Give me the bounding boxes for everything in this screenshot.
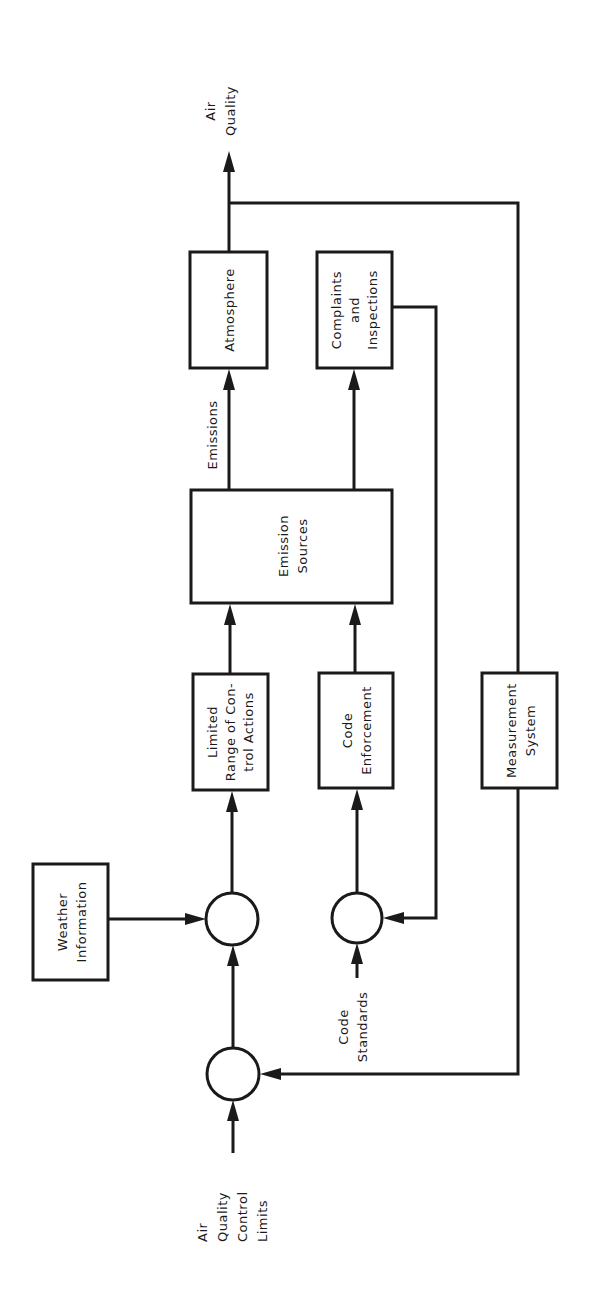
emissions-arrow: [223, 369, 235, 490]
output-air-quality-label: Air Quality: [203, 86, 238, 136]
svg-text:Code: Code: [340, 713, 355, 748]
control-limits-label: Air Quality Control Limits: [195, 1192, 270, 1243]
svg-text:Atmosphere: Atmosphere: [222, 268, 237, 352]
svg-text:Sources: Sources: [295, 519, 310, 574]
svg-text:Information: Information: [74, 882, 89, 963]
air-quality-control-diagram: Air Quality Atmosphere Complaints and In…: [0, 0, 589, 1300]
svg-text:and: and: [347, 297, 362, 323]
atmosphere-block: Atmosphere: [190, 252, 267, 368]
weather-junction-to-control-arrow: [226, 791, 238, 893]
control-limits-input-arrow: [227, 1100, 239, 1153]
weather-junction: [206, 893, 258, 945]
complaints-inspections-block: Complaints and Inspections: [317, 252, 392, 368]
control-actions-to-sources-arrow: [224, 604, 236, 674]
svg-text:Air: Air: [195, 1222, 210, 1242]
svg-text:Code: Code: [336, 1009, 351, 1044]
code-standards-arrow: [351, 943, 363, 978]
emissions-label: Emissions: [205, 400, 220, 469]
svg-text:Inspections: Inspections: [365, 270, 380, 349]
code-standards-label: Code Standards: [336, 992, 370, 1062]
svg-text:Limits: Limits: [255, 1200, 270, 1242]
weather-to-junction-arrow: [108, 913, 206, 925]
svg-text:Standards: Standards: [355, 992, 370, 1062]
emission-sources-block: Emission Sources: [191, 490, 392, 603]
code-enforcement-block: Code Enforcement: [319, 673, 393, 788]
code-junction-to-enforcement-arrow: [351, 789, 363, 893]
limited-range-control-actions-block: Limited Range of Con- trol Actions: [193, 674, 268, 790]
weather-information-block: Weather Information: [33, 864, 108, 980]
svg-text:Weather: Weather: [55, 893, 70, 951]
svg-text:Control: Control: [235, 1192, 250, 1243]
enforcement-to-sources-arrow: [349, 604, 361, 673]
code-junction: [332, 893, 382, 943]
limits-junction-to-weather-junction-arrow: [227, 945, 239, 1048]
svg-text:Measurement: Measurement: [504, 683, 519, 778]
svg-text:Range of Con-: Range of Con-: [223, 683, 238, 781]
svg-text:Limited: Limited: [205, 706, 220, 758]
control-limits-junction: [207, 1048, 259, 1100]
svg-text:Air: Air: [203, 101, 218, 121]
svg-text:Quality: Quality: [215, 1192, 230, 1242]
svg-text:Quality: Quality: [223, 86, 238, 136]
sources-to-complaints-arrow: [348, 369, 360, 490]
svg-text:trol Actions: trol Actions: [241, 692, 256, 771]
complaints-feedback-line: [383, 307, 436, 924]
svg-text:Emission: Emission: [276, 515, 291, 577]
svg-text:Enforcement: Enforcement: [359, 686, 374, 775]
svg-text:System: System: [523, 705, 538, 756]
svg-text:Complaints: Complaints: [329, 271, 344, 349]
svg-text:Emissions: Emissions: [205, 400, 220, 469]
measurement-system-block: Measurement System: [482, 673, 557, 788]
